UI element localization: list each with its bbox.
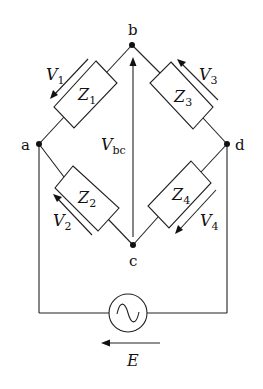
node-label-d: d — [235, 136, 245, 154]
svg-text:V2: V2 — [53, 211, 72, 233]
node-c — [130, 242, 136, 248]
bridge-circuit-diagram: Z1 Z3 Z2 Z4 V1 V3 V2 V4 Vbc — [0, 0, 263, 389]
node-label-a: a — [21, 136, 30, 154]
node-label-b: b — [128, 21, 138, 39]
node-a — [36, 141, 42, 147]
node-d — [224, 141, 230, 147]
svg-text:Vbc: Vbc — [101, 135, 126, 157]
node-label-c: c — [129, 252, 137, 270]
source-label: E — [126, 351, 139, 370]
svg-text:V4: V4 — [200, 211, 219, 233]
node-b — [129, 42, 135, 48]
svg-text:V3: V3 — [199, 65, 218, 87]
svg-text:V1: V1 — [46, 65, 65, 87]
ac-source: E — [101, 294, 160, 370]
